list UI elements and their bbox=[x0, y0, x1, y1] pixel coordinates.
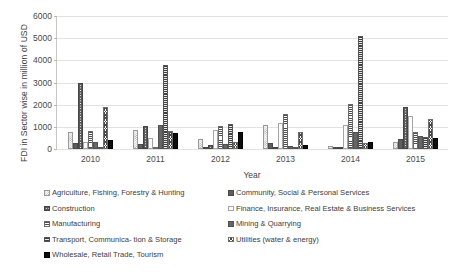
legend-column-left: Agriculture, Fishing, Forestry & Hunting… bbox=[44, 185, 228, 263]
bar bbox=[303, 145, 308, 149]
bar bbox=[78, 83, 83, 149]
legend-swatch-icon bbox=[44, 190, 50, 196]
bar bbox=[108, 140, 113, 149]
legend-label: Utilities (water & energy) bbox=[236, 235, 319, 244]
y-axis-tick-label: 6000 bbox=[33, 11, 52, 21]
y-tick-mark bbox=[54, 83, 57, 84]
y-axis-title: FDI in Sector wise in million of USD bbox=[19, 13, 29, 173]
legend-item: Construction bbox=[44, 201, 228, 217]
bar bbox=[283, 114, 288, 149]
x-axis-tick-label: 2011 bbox=[123, 154, 188, 164]
y-axis-tick-label: 0 bbox=[47, 144, 52, 154]
legend-swatch-icon bbox=[44, 221, 50, 227]
bar-group: 2013 bbox=[253, 16, 318, 149]
bar-group: 2012 bbox=[188, 16, 253, 149]
plot-frame: 0100020003000400050006000 20102011201220… bbox=[56, 16, 448, 150]
legend-label: Construction bbox=[52, 204, 95, 213]
legend-label: Manufacturing bbox=[52, 219, 100, 228]
bar bbox=[173, 133, 178, 149]
legend-label: Wholesale, Retail Trade, Tourism bbox=[52, 250, 163, 259]
legend-label: Finance, Insurance, Real Estate & Busine… bbox=[236, 204, 415, 213]
y-axis-tick-label: 4000 bbox=[33, 55, 52, 65]
legend-item: Finance, Insurance, Real Estate & Busine… bbox=[228, 201, 454, 217]
y-axis-tick-label: 5000 bbox=[33, 33, 52, 43]
legend-label: Transport, Communica- tion & Storage bbox=[52, 235, 182, 244]
legend-swatch-icon bbox=[228, 206, 234, 212]
legend-item: Community, Social & Personal Services bbox=[228, 185, 454, 201]
x-axis-tick-label: 2012 bbox=[188, 154, 253, 164]
bar-group: 2014 bbox=[318, 16, 383, 149]
bar bbox=[368, 142, 373, 149]
y-tick-mark bbox=[54, 60, 57, 61]
legend-label: Agriculture, Fishing, Forestry & Hunting bbox=[52, 188, 185, 197]
bar-group: 2011 bbox=[123, 16, 188, 149]
y-axis-tick-label: 2000 bbox=[33, 100, 52, 110]
x-axis-tick-label: 2015 bbox=[383, 154, 448, 164]
y-axis-tick-label: 3000 bbox=[33, 78, 52, 88]
x-axis-tick-label: 2010 bbox=[58, 154, 123, 164]
legend-swatch-icon bbox=[44, 237, 50, 243]
legend-swatch-icon bbox=[228, 237, 234, 243]
gridline bbox=[57, 149, 448, 150]
legend-swatch-icon bbox=[44, 252, 50, 258]
bar bbox=[358, 36, 363, 149]
legend-item: Mining & Quarrying bbox=[228, 216, 454, 232]
bar-groups: 201020112012201320142015 bbox=[58, 16, 448, 149]
bar bbox=[433, 138, 438, 149]
legend: Agriculture, Fishing, Forestry & Hunting… bbox=[44, 185, 454, 263]
legend-item: Wholesale, Retail Trade, Tourism bbox=[44, 247, 228, 263]
legend-column-right: Community, Social & Personal ServicesFin… bbox=[228, 185, 454, 263]
chart-container: FDI in Sector wise in million of USD 010… bbox=[0, 0, 459, 272]
legend-label: Community, Social & Personal Services bbox=[236, 188, 369, 197]
x-axis-title: Year bbox=[56, 170, 448, 180]
y-tick-mark bbox=[54, 149, 57, 150]
legend-item: Utilities (water & energy) bbox=[228, 232, 454, 248]
bar bbox=[238, 132, 243, 149]
legend-item: Agriculture, Fishing, Forestry & Hunting bbox=[44, 185, 228, 201]
legend-item: Manufacturing bbox=[44, 216, 228, 232]
y-axis-tick-label: 1000 bbox=[33, 122, 52, 132]
plot-area: 0100020003000400050006000 20102011201220… bbox=[56, 16, 448, 150]
legend-item: Transport, Communica- tion & Storage bbox=[44, 232, 228, 248]
y-tick-mark bbox=[54, 105, 57, 106]
legend-swatch-icon bbox=[228, 221, 234, 227]
bar-group: 2015 bbox=[383, 16, 448, 149]
x-axis-tick-label: 2014 bbox=[318, 154, 383, 164]
bar-group: 2010 bbox=[58, 16, 123, 149]
legend-swatch-icon bbox=[228, 190, 234, 196]
legend-swatch-icon bbox=[44, 206, 50, 212]
x-axis-tick-label: 2013 bbox=[253, 154, 318, 164]
legend-label: Mining & Quarrying bbox=[236, 219, 301, 228]
y-tick-mark bbox=[54, 16, 57, 17]
y-tick-mark bbox=[54, 38, 57, 39]
y-tick-mark bbox=[54, 127, 57, 128]
